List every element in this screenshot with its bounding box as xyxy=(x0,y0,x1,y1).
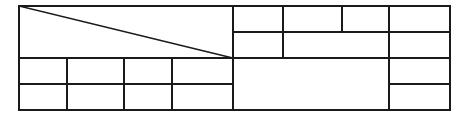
cell-left-r2c1[interactable] xyxy=(19,84,67,110)
cell-left-r1c1[interactable] xyxy=(19,58,67,84)
cell-right-top-4[interactable] xyxy=(389,6,450,32)
cell-left-r2c2[interactable] xyxy=(67,84,124,110)
cell-right-bottom-main[interactable] xyxy=(233,58,389,110)
cell-right-mid-1[interactable] xyxy=(233,32,283,58)
cell-left-r1c4[interactable] xyxy=(172,58,233,84)
cell-left-r1c2[interactable] xyxy=(67,58,124,84)
diagram-root xyxy=(0,0,464,119)
cell-right-mid-3[interactable] xyxy=(389,32,450,58)
diagram-canvas xyxy=(0,0,464,119)
cell-left-r2c3[interactable] xyxy=(124,84,172,110)
cell-far-right-lower[interactable] xyxy=(389,84,450,110)
cell-right-mid-2[interactable] xyxy=(283,32,389,58)
cell-far-right-upper[interactable] xyxy=(389,58,450,84)
cell-right-top-2[interactable] xyxy=(283,6,342,32)
cell-left-r1c3[interactable] xyxy=(124,58,172,84)
cell-left-r2c4[interactable] xyxy=(172,84,233,110)
cell-right-top-1[interactable] xyxy=(233,6,283,32)
cell-right-top-3[interactable] xyxy=(342,6,389,32)
